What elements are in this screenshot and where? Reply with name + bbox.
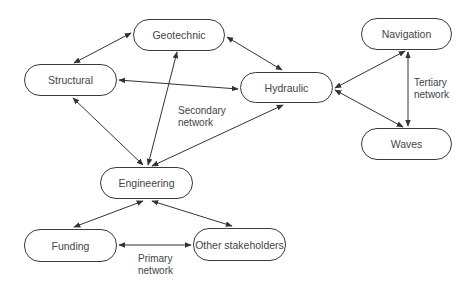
tertiary-network-label: Tertiary network bbox=[414, 77, 449, 101]
node-label: Navigation bbox=[382, 28, 432, 40]
node-other-stakeholders: Other stakeholders bbox=[193, 228, 286, 261]
edge-structural-geotechnic bbox=[74, 33, 131, 63]
edge-geotechnic-engineering bbox=[148, 52, 177, 165]
node-label: Structural bbox=[48, 74, 93, 86]
node-hydraulic: Hydraulic bbox=[240, 72, 333, 103]
primary-network-label: Primary network bbox=[138, 253, 173, 277]
node-structural: Structural bbox=[24, 64, 117, 96]
node-label: Funding bbox=[52, 240, 90, 252]
secondary-network-label: Secondary network bbox=[178, 105, 226, 129]
node-label: Engineering bbox=[118, 177, 174, 189]
edge-engineering-funding bbox=[74, 201, 143, 227]
node-label: Waves bbox=[391, 138, 423, 150]
node-navigation: Navigation bbox=[361, 18, 452, 50]
node-label: Hydraulic bbox=[265, 82, 309, 94]
node-geotechnic: Geotechnic bbox=[133, 19, 225, 51]
edge-engineering-other bbox=[152, 201, 232, 226]
edge-hydraulic-waves bbox=[335, 90, 403, 127]
edge-structural-engineering bbox=[73, 98, 143, 165]
edge-structural-hydraulic bbox=[119, 80, 238, 89]
node-funding: Funding bbox=[24, 229, 117, 262]
node-label: Geotechnic bbox=[152, 29, 205, 41]
edge-hydraulic-navigation bbox=[335, 51, 405, 88]
node-engineering: Engineering bbox=[100, 167, 193, 199]
node-waves: Waves bbox=[361, 128, 452, 160]
node-label: Other stakeholders bbox=[195, 239, 284, 251]
edge-geotechnic-hydraulic bbox=[227, 37, 282, 70]
